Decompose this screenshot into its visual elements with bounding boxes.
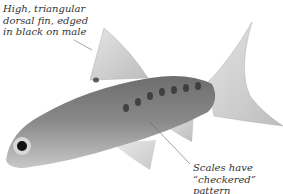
dorsal-fin-annotation: High, triangular dorsal fin, edged in bl… — [3, 3, 88, 38]
annotation-line: “checkered” — [193, 174, 256, 186]
annotation-line: dorsal fin, edged — [3, 15, 88, 27]
tail-fin — [208, 22, 283, 126]
annotation-line: High, triangular — [3, 3, 88, 15]
annotation-line: Scales have — [193, 162, 256, 174]
annotation-line: in black on male — [3, 26, 88, 38]
scales-annotation: Scales have “checkered” pattern — [193, 162, 256, 194]
annotation-line: pattern — [193, 185, 256, 194]
dorsal-leader-line — [74, 40, 92, 50]
dorsal-fin — [90, 28, 148, 80]
